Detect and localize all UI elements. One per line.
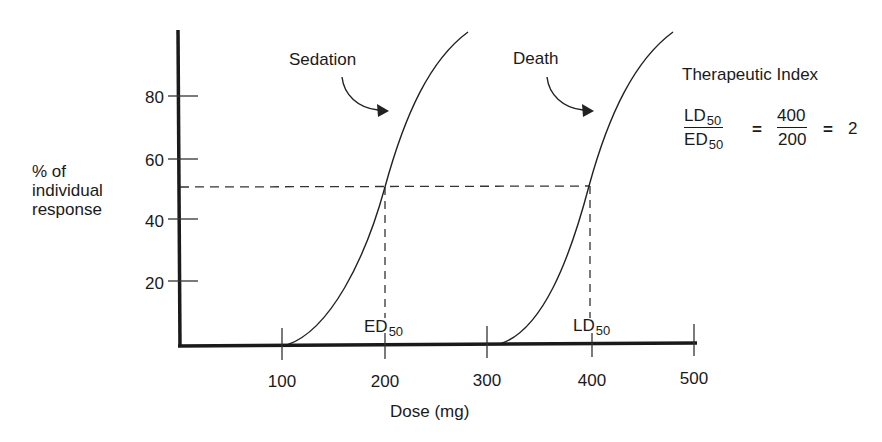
y-axis <box>178 30 180 347</box>
sedation-curve <box>287 32 468 345</box>
value-numerator: 400 <box>777 107 807 128</box>
y-tick-label-60: 60 <box>124 152 164 169</box>
ld50-label-main: LD <box>573 316 595 335</box>
denominator-sub: 50 <box>709 137 723 152</box>
equals-sign-2: = <box>823 121 833 138</box>
y-tick-label-20: 20 <box>124 275 164 292</box>
x-tick-label-400: 400 <box>567 372 617 389</box>
numerator-sub: 50 <box>707 113 721 128</box>
denominator-main: ED <box>684 130 708 149</box>
ld50-label-sub: 50 <box>596 323 610 338</box>
fraction-numerator: LD50 <box>684 107 723 128</box>
death-arrowhead-icon <box>582 104 594 117</box>
y-tick-label-40: 40 <box>124 213 164 230</box>
sedation-annotation: Sedation <box>289 51 356 68</box>
ed50-label: ED50 <box>364 318 403 335</box>
y-axis-title-line3: response <box>32 201 102 218</box>
ld50-label: LD50 <box>573 317 610 334</box>
y-tick-label-80: 80 <box>124 89 164 106</box>
death-annotation: Death <box>513 50 558 67</box>
x-tick-label-300: 300 <box>462 372 512 389</box>
value-fraction: 400 200 <box>777 107 807 148</box>
ed50-label-main: ED <box>364 317 388 336</box>
therapeutic-index-title: Therapeutic Index <box>682 66 818 83</box>
death-curve <box>500 32 673 344</box>
equals-sign-1: = <box>752 121 762 138</box>
y-axis-title-line1: % of <box>32 163 66 180</box>
sedation-arrow-icon <box>342 77 378 110</box>
x-axis-title: Dose (mg) <box>390 403 469 420</box>
fraction-denominator: ED50 <box>684 128 723 148</box>
ld50-over-ed50-fraction: LD50 ED50 <box>684 107 723 148</box>
ed50-label-sub: 50 <box>389 324 403 339</box>
x-axis <box>178 343 697 346</box>
therapeutic-index-result: 2 <box>848 120 857 137</box>
x-tick-label-200: 200 <box>360 373 410 390</box>
numerator-main: LD <box>684 106 706 125</box>
value-denominator: 200 <box>778 128 806 148</box>
sedation-arrowhead-icon <box>377 104 389 117</box>
x-tick-label-100: 100 <box>257 373 307 390</box>
death-arrow-icon <box>547 77 583 110</box>
y-axis-title-line2: individual <box>32 182 103 199</box>
x-tick-label-500: 500 <box>669 370 719 387</box>
